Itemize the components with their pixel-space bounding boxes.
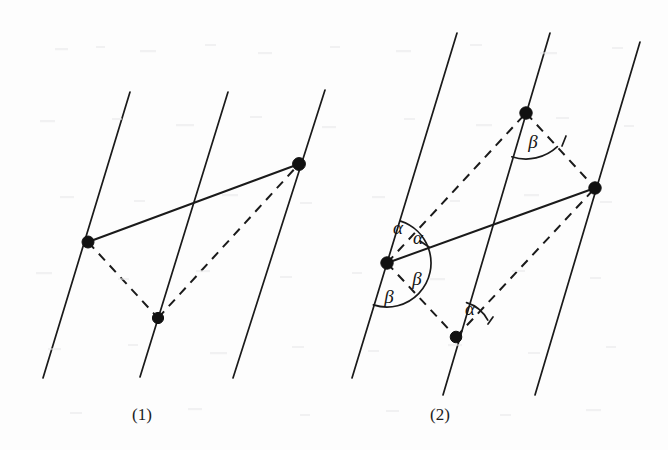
angle-label-beta-lower-right: β xyxy=(411,268,422,289)
angle-label-beta-top: β xyxy=(527,131,538,152)
vertex-point-bottom-middle xyxy=(152,312,163,323)
arc-tick-bottom-vertex xyxy=(488,317,493,324)
solid-segment-left-to-right xyxy=(387,188,595,263)
vertex-point-right xyxy=(589,182,601,194)
solid-segment-left-to-topright xyxy=(88,164,299,242)
arc-tick-top-vertex xyxy=(562,136,566,146)
panel-1-diagram xyxy=(43,90,325,378)
vertex-point-bottom-middle xyxy=(450,331,462,343)
vertex-point-left xyxy=(82,236,94,248)
angle-label-beta-lower-left: β xyxy=(383,286,394,307)
dashed-segment-left-to-topmiddle xyxy=(387,113,526,263)
dashed-segment-bottom-to-topright xyxy=(158,164,299,318)
parallel-line-right xyxy=(233,90,325,378)
panel-2-diagram: ααβββα xyxy=(352,33,640,395)
figure-captions: (1)(2) xyxy=(132,405,450,424)
parallel-line-middle xyxy=(140,92,228,377)
parallel-line-left xyxy=(43,92,130,378)
vertex-point-top-middle xyxy=(520,107,532,119)
parallel-line-right xyxy=(535,42,640,395)
angle-label-alpha-upper-right: α xyxy=(413,227,424,248)
vertex-point-top-right xyxy=(293,158,306,171)
angle-label-alpha-bottom: α xyxy=(465,298,476,319)
geometry-figure-container: ααβββα (1)(2) xyxy=(0,0,668,450)
caption-panel-1: (1) xyxy=(132,405,152,424)
figure-svg-canvas: ααβββα (1)(2) xyxy=(0,0,668,450)
vertex-point-left xyxy=(381,257,393,269)
angle-label-alpha-upper-left: α xyxy=(393,217,404,238)
dashed-segment-left-to-bottom xyxy=(88,242,158,318)
parallel-line-left xyxy=(352,33,457,378)
caption-panel-2: (2) xyxy=(430,405,450,424)
